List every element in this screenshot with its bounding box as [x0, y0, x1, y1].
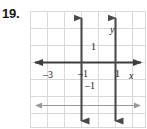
coordinate-graph: –3 –1 1 1 –1 x y — [30, 11, 146, 128]
x-tick-label-neg3: –3 — [43, 70, 53, 80]
y-tick-label-neg1: –1 — [85, 81, 95, 91]
y-axis-name-label: y — [110, 25, 114, 35]
problem-number-label: 19. — [2, 7, 19, 20]
figure-container: 19. — [0, 0, 147, 129]
x-axis-name-label: x — [129, 71, 133, 81]
y-tick-label-pos1: 1 — [91, 42, 96, 52]
x-tick-label-neg1: –1 — [78, 69, 88, 79]
x-tick-label-pos1: 1 — [115, 69, 120, 79]
